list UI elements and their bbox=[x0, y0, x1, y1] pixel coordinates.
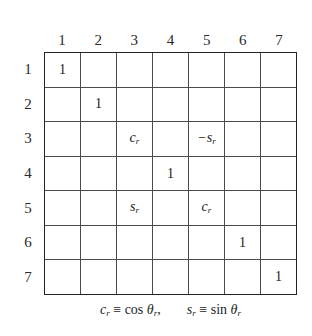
matrix-cell-5-3: sr bbox=[117, 191, 153, 225]
matrix-row: 1 bbox=[45, 53, 296, 88]
row-header-5: 5 bbox=[14, 191, 42, 226]
column-header-7: 7 bbox=[261, 28, 297, 52]
matrix-cell-2-1 bbox=[45, 88, 81, 122]
matrix-grid: 11cr−sr1srcr11 bbox=[44, 52, 297, 295]
matrix-cell-2-3 bbox=[117, 88, 153, 122]
matrix-cell-3-2 bbox=[81, 122, 117, 156]
matrix-cell-5-4 bbox=[153, 191, 189, 225]
matrix-cell-7-5 bbox=[189, 260, 225, 294]
matrix-cell-2-2: 1 bbox=[81, 88, 117, 122]
matrix-cell-3-4 bbox=[153, 122, 189, 156]
row-header-column: 1234567 bbox=[14, 52, 42, 295]
matrix-row: cr−sr bbox=[45, 122, 296, 157]
matrix-cell-4-4: 1 bbox=[153, 157, 189, 191]
cell-value: 1 bbox=[167, 167, 174, 181]
matrix-cell-7-4 bbox=[153, 260, 189, 294]
column-header-5: 5 bbox=[189, 28, 225, 52]
matrix-cell-6-4 bbox=[153, 226, 189, 260]
row-header-3: 3 bbox=[14, 121, 42, 156]
matrix-row: srcr bbox=[45, 191, 296, 226]
matrix-cell-5-5: cr bbox=[189, 191, 225, 225]
row-header-7: 7 bbox=[14, 260, 42, 295]
matrix-cell-1-6 bbox=[225, 53, 261, 87]
matrix-cell-1-2 bbox=[81, 53, 117, 87]
matrix-cell-7-3 bbox=[117, 260, 153, 294]
matrix-cell-3-3: cr bbox=[117, 122, 153, 156]
column-header-row: 1234567 bbox=[44, 28, 297, 52]
matrix-cell-2-7 bbox=[261, 88, 296, 122]
matrix-cell-3-1 bbox=[45, 122, 81, 156]
figure-caption: cr ≡ cos θr,sr ≡ sin θr bbox=[44, 298, 297, 322]
matrix-cell-4-6 bbox=[225, 157, 261, 191]
matrix-cell-6-3 bbox=[117, 226, 153, 260]
matrix-row: 1 bbox=[45, 260, 296, 294]
matrix-cell-1-7 bbox=[261, 53, 296, 87]
matrix-cell-6-1 bbox=[45, 226, 81, 260]
row-header-4: 4 bbox=[14, 156, 42, 191]
matrix-cell-2-6 bbox=[225, 88, 261, 122]
cell-symbol: −sr bbox=[197, 131, 216, 146]
matrix-cell-2-5 bbox=[189, 88, 225, 122]
matrix-cell-6-6: 1 bbox=[225, 226, 261, 260]
matrix-cell-7-6 bbox=[225, 260, 261, 294]
matrix-figure: 1234567 1234567 11cr−sr1srcr11 cr ≡ cos … bbox=[0, 0, 312, 336]
row-header-6: 6 bbox=[14, 226, 42, 261]
row-header-2: 2 bbox=[14, 87, 42, 122]
cell-symbol: cr bbox=[130, 131, 140, 146]
matrix-row: 1 bbox=[45, 226, 296, 261]
matrix-cell-5-6 bbox=[225, 191, 261, 225]
matrix-cell-3-5: −sr bbox=[189, 122, 225, 156]
column-header-1: 1 bbox=[44, 28, 80, 52]
matrix-row: 1 bbox=[45, 88, 296, 123]
matrix-row: 1 bbox=[45, 157, 296, 192]
cell-value: 1 bbox=[95, 97, 102, 111]
matrix-cell-7-7: 1 bbox=[261, 260, 296, 294]
matrix-cell-4-5 bbox=[189, 157, 225, 191]
matrix-cell-5-2 bbox=[81, 191, 117, 225]
row-header-1: 1 bbox=[14, 52, 42, 87]
cell-symbol: sr bbox=[130, 200, 139, 215]
matrix-cell-4-1 bbox=[45, 157, 81, 191]
cell-value: 1 bbox=[59, 63, 66, 77]
matrix-cell-4-2 bbox=[81, 157, 117, 191]
definition-sr: sr ≡ sin θr bbox=[187, 302, 241, 318]
matrix-cell-1-1: 1 bbox=[45, 53, 81, 87]
matrix-cell-6-5 bbox=[189, 226, 225, 260]
cell-value: 1 bbox=[275, 270, 282, 284]
matrix-cell-5-1 bbox=[45, 191, 81, 225]
matrix-cell-5-7 bbox=[261, 191, 296, 225]
matrix-cell-7-2 bbox=[81, 260, 117, 294]
column-header-6: 6 bbox=[225, 28, 261, 52]
matrix-cell-2-4 bbox=[153, 88, 189, 122]
column-header-4: 4 bbox=[152, 28, 188, 52]
matrix-cell-6-2 bbox=[81, 226, 117, 260]
matrix-cell-1-4 bbox=[153, 53, 189, 87]
matrix-cell-4-3 bbox=[117, 157, 153, 191]
matrix-cell-7-1 bbox=[45, 260, 81, 294]
matrix-cell-4-7 bbox=[261, 157, 296, 191]
matrix-cell-1-5 bbox=[189, 53, 225, 87]
definition-cr: cr ≡ cos θr, bbox=[100, 302, 161, 318]
column-header-2: 2 bbox=[80, 28, 116, 52]
cell-symbol: cr bbox=[202, 200, 212, 215]
matrix-cell-3-6 bbox=[225, 122, 261, 156]
cell-value: 1 bbox=[239, 236, 246, 250]
column-header-3: 3 bbox=[116, 28, 152, 52]
matrix-cell-3-7 bbox=[261, 122, 296, 156]
matrix-cell-6-7 bbox=[261, 226, 296, 260]
matrix-cell-1-3 bbox=[117, 53, 153, 87]
